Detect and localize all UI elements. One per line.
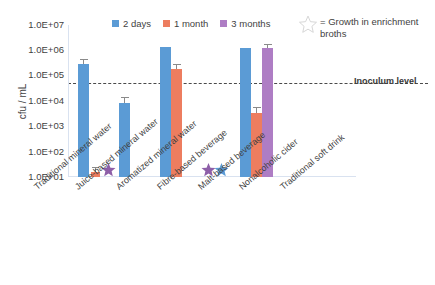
- errorbar-traditional-mineral-water-2-days: [83, 60, 84, 64]
- chart-container: 2 days 1 month 3 months = Growth in enri…: [0, 0, 435, 285]
- errorbar-cap-malt-based-beverage-1-month: [253, 107, 261, 108]
- y-tick-label-1e7: 1.0E+07: [8, 20, 64, 30]
- inoculum-level-label: Inoculum level: [354, 76, 417, 86]
- bar-traditional-mineral-water-2-days[interactable]: [78, 64, 89, 177]
- y-tick-label-1e6: 1.0E+06: [8, 45, 64, 55]
- errorbar-cap-juice-based-mineral-water-2-days: [121, 97, 129, 98]
- bar-aromatized-mineral-water-2-days[interactable]: [160, 47, 171, 177]
- errorbar-malt-based-beverage-1-month: [256, 108, 257, 113]
- y-tick-label-1e2: 1.0E+02: [8, 147, 64, 157]
- y-tick-label-1e3: 1.0E+03: [8, 121, 64, 131]
- errorbar-cap-malt-based-beverage-3-months: [264, 44, 272, 45]
- errorbar-juice-based-mineral-water-2-days: [124, 98, 125, 103]
- errorbar-cap-traditional-mineral-water-2-days: [80, 59, 88, 60]
- y-tick-label-1e4: 1.0E+04: [8, 96, 64, 106]
- errorbar-cap-aromatized-mineral-water-1-month: [173, 64, 181, 65]
- bar-aromatized-mineral-water-1-month[interactable]: [171, 69, 182, 177]
- errorbar-malt-based-beverage-3-months: [267, 45, 268, 48]
- errorbar-aromatized-mineral-water-1-month: [176, 65, 177, 69]
- y-tick-label-1e5: 1.0E+05: [8, 70, 64, 80]
